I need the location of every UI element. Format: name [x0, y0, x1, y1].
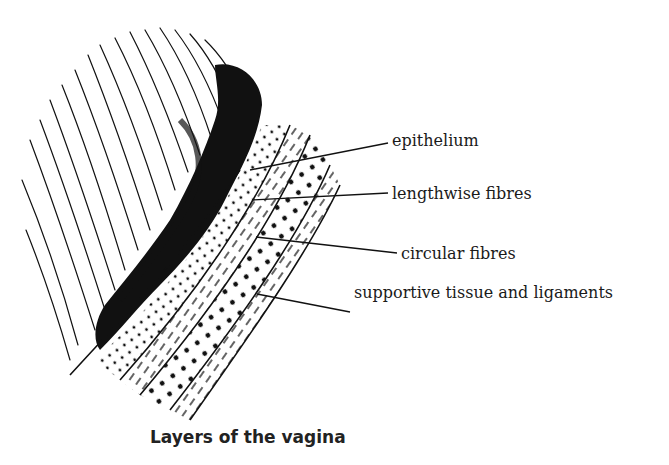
- label-supportive-tissue: supportive tissue and ligaments: [354, 285, 613, 301]
- label-circular-fibres: circular fibres: [401, 246, 516, 262]
- label-epithelium: epithelium: [392, 133, 479, 149]
- figure-caption: Layers of the vagina: [150, 427, 346, 447]
- label-lengthwise-fibres: lengthwise fibres: [392, 186, 532, 202]
- vagina-layers-illustration: [0, 0, 669, 465]
- anatomy-diagram: epithelium lengthwise fibres circular fi…: [0, 0, 669, 465]
